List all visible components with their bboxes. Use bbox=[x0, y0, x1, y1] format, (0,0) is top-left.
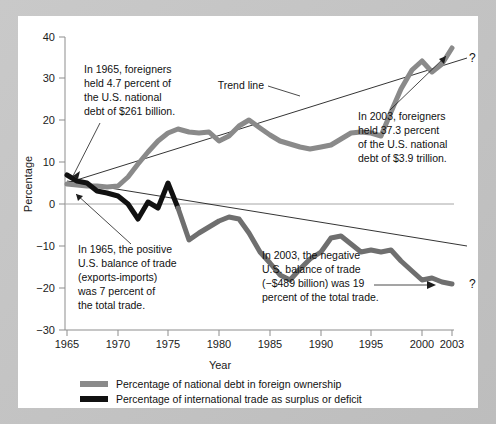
trade-1965-line1: In 1965, the positive bbox=[78, 243, 172, 255]
trade-1965-line4: was 7 percent of bbox=[77, 285, 155, 297]
y-axis-title: Percentage bbox=[22, 156, 34, 212]
figure-panel: 40 30 20 10 0 −10 −20 −30 1965 bbox=[18, 16, 478, 408]
trade-1965-arrowhead-icon bbox=[76, 194, 83, 201]
y-tick-label-neg20: −20 bbox=[36, 282, 55, 294]
annotation-trade-2003: In 2003, the negative U.S. balance of tr… bbox=[262, 249, 436, 303]
y-tick-label-10: 10 bbox=[43, 156, 55, 168]
trade-1965-line2: U.S. balance of trade bbox=[78, 257, 177, 269]
trade-1965-line3: (exports-imports) bbox=[78, 271, 157, 283]
y-tick-label-neg30: −30 bbox=[36, 324, 55, 336]
x-tick-label-1965: 1965 bbox=[55, 338, 79, 350]
x-tick-label-1985: 1985 bbox=[258, 338, 282, 350]
trade-1965-line5: the total trade. bbox=[78, 299, 145, 311]
debt-1965-line3: the U.S. national bbox=[84, 91, 162, 103]
trade-and-debt-line-chart: 40 30 20 10 0 −10 −20 −30 1965 bbox=[18, 16, 478, 408]
trade-trend-line bbox=[67, 181, 467, 246]
annotation-trend-line: Trend line bbox=[218, 79, 300, 96]
chart-legend: Percentage of national debt in foreign o… bbox=[80, 378, 362, 405]
x-tick-label-1980: 1980 bbox=[207, 338, 231, 350]
x-tick-label-2000: 2000 bbox=[410, 338, 434, 350]
legend-label-trade: Percentage of international trade as sur… bbox=[116, 393, 362, 405]
legend-swatch-trade bbox=[80, 396, 108, 402]
x-tick-label-1970: 1970 bbox=[106, 338, 130, 350]
x-tick-label-1995: 1995 bbox=[359, 338, 383, 350]
debt-1965-leader bbox=[73, 123, 100, 176]
debt-2003-line2: held 37.3 percent bbox=[358, 124, 439, 136]
annotation-trade-1965: In 1965, the positive U.S. balance of tr… bbox=[76, 194, 177, 311]
x-tick-label-2003: 2003 bbox=[440, 338, 464, 350]
debt-1965-line2: held 4.7 percent of bbox=[84, 77, 171, 89]
trend-line-label: Trend line bbox=[218, 79, 264, 91]
annotation-debt-1965: In 1965, foreigners held 4.7 percent of … bbox=[73, 63, 175, 179]
trade-2003-line3: (−$489 billion) was 19 bbox=[262, 277, 365, 289]
debt-1965-line1: In 1965, foreigners bbox=[84, 63, 172, 75]
trend-line-leader bbox=[268, 86, 300, 96]
debt-2003-line4: debt of $3.9 trillion. bbox=[358, 152, 447, 164]
y-tick-label-neg10: −10 bbox=[36, 240, 55, 252]
trade-2003-line1: In 2003, the negative bbox=[262, 249, 360, 261]
legend-swatch-debt bbox=[80, 381, 108, 387]
debt-2003-line1: In 2003, foreigners bbox=[358, 110, 446, 122]
trade-2003-line4: percent of the total trade. bbox=[262, 291, 379, 303]
debt-1965-line4: debt of $261 billion. bbox=[84, 105, 175, 117]
x-tick-label-1975: 1975 bbox=[156, 338, 180, 350]
debt-2003-line3: of the U.S. national bbox=[358, 138, 447, 150]
future-question-upper-icon: ? bbox=[469, 51, 476, 65]
future-question-lower-icon: ? bbox=[469, 277, 476, 291]
trade-2003-line2: U.S. balance of trade bbox=[262, 263, 361, 275]
trade-2003-arrowhead-icon bbox=[427, 281, 436, 289]
y-tick-label-30: 30 bbox=[43, 72, 55, 84]
y-tick-label-0: 0 bbox=[49, 198, 55, 210]
x-axis-title: Year bbox=[209, 359, 232, 371]
y-tick-label-40: 40 bbox=[43, 31, 55, 43]
x-tick-label-1990: 1990 bbox=[309, 338, 333, 350]
y-tick-label-20: 20 bbox=[43, 114, 55, 126]
image-border-frame: 40 30 20 10 0 −10 −20 −30 1965 bbox=[0, 0, 496, 424]
legend-label-debt: Percentage of national debt in foreign o… bbox=[116, 378, 341, 390]
